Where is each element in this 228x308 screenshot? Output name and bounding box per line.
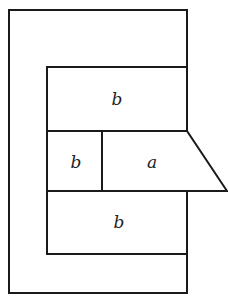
top-block-label: b	[112, 89, 123, 109]
middle-left-label: b	[71, 152, 82, 172]
middle-right-trapezoid	[102, 131, 227, 191]
diagram-canvas: b b a b	[0, 0, 228, 308]
outer-frame	[9, 10, 187, 293]
bottom-block-label: b	[114, 212, 125, 232]
middle-right-label: a	[147, 152, 157, 172]
